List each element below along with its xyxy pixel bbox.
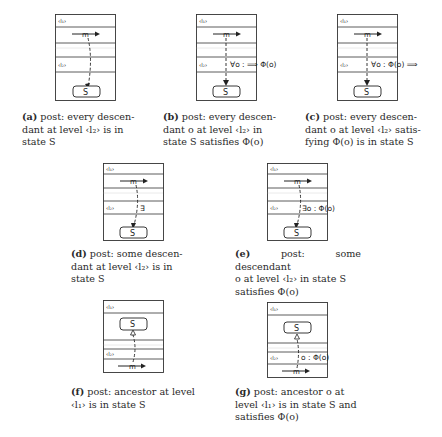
descendant-diagram-d: ‹l₁› ‹l₂› m S ∃ bbox=[103, 163, 165, 243]
svg-text:m: m bbox=[130, 178, 137, 186]
diagram-g: ‹l₁› ‹l₂› S o : Φ(o) m bbox=[267, 302, 329, 380]
caption-f: (f) post: ancestor at level ‹l₁› is in s… bbox=[71, 386, 197, 411]
message-arrow: m bbox=[284, 178, 312, 186]
svg-text:m: m bbox=[364, 31, 371, 39]
diagram-c: ‹l₁› ‹l₂› m S ∀o : Φ(o) ⟹ bbox=[337, 14, 399, 102]
diagram-d: ‹l₁› ‹l₂› m S ∃ bbox=[103, 163, 165, 243]
svg-text:m: m bbox=[293, 368, 300, 376]
caption-g: (g) post: ancestor o at level ‹l₁› is in… bbox=[235, 386, 361, 424]
descendant-path bbox=[134, 185, 138, 225]
state-label: S bbox=[130, 320, 135, 329]
quantifier-annotation: ∃ bbox=[140, 204, 145, 213]
level-l1-label: ‹l₁› bbox=[270, 166, 278, 172]
diagram-a: ‹l₁› ‹l₂› m S bbox=[55, 14, 117, 102]
descendant-diagram-c: ‹l₁› ‹l₂› m S ∀o : Φ(o) ⟹ bbox=[337, 14, 399, 102]
descendant-diagram-e: ‹l₁› ‹l₂› m S ∃o : Φ(o) bbox=[267, 163, 329, 243]
quantifier-annotation: ∃o : Φ(o) bbox=[302, 204, 335, 213]
svg-text:m: m bbox=[223, 31, 230, 39]
ancestor-diagram-g: ‹l₁› ‹l₂› S o : Φ(o) m bbox=[267, 302, 329, 380]
state-label: S bbox=[83, 88, 88, 97]
level-l2-label: ‹l₂› bbox=[270, 355, 278, 361]
level-l1-label: ‹l₁› bbox=[270, 306, 278, 312]
descendant-path bbox=[88, 38, 91, 87]
diagram-e: ‹l₁› ‹l₂› m S ∃o : Φ(o) bbox=[267, 163, 329, 243]
svg-text:m: m bbox=[294, 178, 301, 186]
state-label: S bbox=[364, 88, 369, 97]
ancestor-path bbox=[133, 335, 135, 362]
descendant-path bbox=[297, 185, 301, 225]
level-l2-label: ‹l₂› bbox=[340, 62, 348, 68]
quantifier-annotation: ∀o : Φ(o) ⟹ bbox=[371, 60, 418, 69]
level-l2-label: ‹l₂› bbox=[270, 205, 278, 211]
state-label: S bbox=[223, 88, 228, 97]
diagram-f: ‹l₁› ‹l₂› S m bbox=[103, 300, 165, 376]
message-arrow: m bbox=[213, 31, 241, 39]
descendant-diagram-b: ‹l₁› ‹l₂› m S ∀o : ⟹ Φ(o) bbox=[196, 14, 258, 102]
message-arrow: m bbox=[72, 31, 100, 39]
caption-e: (e) post: some descendant o at level ‹l₂… bbox=[235, 248, 361, 298]
caption-c: (c) post: every descen- dant o at level … bbox=[305, 111, 429, 149]
level-l1-label: ‹l₁› bbox=[199, 18, 207, 24]
message-arrow: m bbox=[120, 178, 148, 186]
state-label: S bbox=[294, 324, 299, 333]
svg-text:m: m bbox=[82, 31, 89, 39]
level-l1-label: ‹l₁› bbox=[106, 304, 114, 310]
level-l2-label: ‹l₂› bbox=[106, 351, 114, 357]
ancestor-diagram-f: ‹l₁› ‹l₂› S m bbox=[103, 300, 165, 376]
caption-b: (b) post: every descen- dant o at level … bbox=[163, 111, 287, 149]
level-l1-label: ‹l₁› bbox=[106, 166, 114, 172]
level-l2-label: ‹l₂› bbox=[199, 62, 207, 68]
caption-a: (a) post: every descen- dant at level ‹l… bbox=[22, 111, 146, 149]
level-l2-label: ‹l₂› bbox=[106, 205, 114, 211]
descendant-diagram-a: ‹l₁› ‹l₂› m S bbox=[55, 14, 117, 102]
level-l1-label: ‹l₁› bbox=[340, 18, 348, 24]
level-l2-label: ‹l₂› bbox=[58, 62, 66, 68]
message-arrow: m bbox=[118, 363, 146, 371]
svg-text:m: m bbox=[129, 363, 136, 371]
level-l1-label: ‹l₁› bbox=[58, 18, 66, 24]
message-arrow: m bbox=[354, 31, 382, 39]
message-arrow: m bbox=[282, 368, 310, 376]
state-label: S bbox=[130, 229, 135, 238]
state-label: S bbox=[294, 229, 299, 238]
caption-d: (d) post: some descen- dant at level ‹l₂… bbox=[71, 248, 195, 286]
diagram-b: ‹l₁› ‹l₂› m S ∀o : ⟹ Φ(o) bbox=[196, 14, 258, 102]
ancestor-annotation: o : Φ(o) bbox=[301, 353, 329, 362]
quantifier-annotation: ∀o : ⟹ Φ(o) bbox=[230, 60, 277, 69]
